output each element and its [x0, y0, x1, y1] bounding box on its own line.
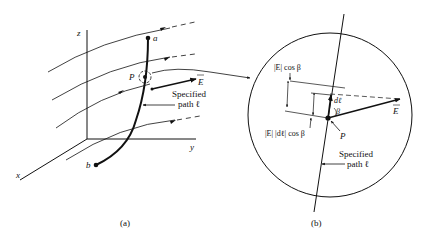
point-a-dot — [146, 36, 151, 41]
e-dl-cos-dimension — [313, 96, 314, 115]
point-p-label: P — [128, 72, 135, 82]
z-axis-label: z — [76, 28, 81, 38]
p-pointer-arrow — [331, 121, 340, 131]
e-cos-dimension — [287, 84, 288, 107]
path-label-line1: Specified — [172, 89, 206, 99]
e-dl-cos-tick-arrow — [310, 118, 311, 128]
zoom-connector-arrow — [210, 72, 250, 78]
point-p-dot — [143, 75, 147, 79]
path-label-b-line2: path ℓ — [347, 159, 369, 169]
path-label-line2: path ℓ — [178, 99, 200, 109]
point-b-dot — [94, 163, 99, 168]
dl-label: dℓ — [334, 96, 342, 105]
e-field-label: E — [197, 77, 204, 87]
diagram-canvas: z y x a b P E — [0, 0, 422, 238]
y-axis-label: y — [189, 142, 194, 152]
zoom-circle — [248, 33, 412, 197]
point-p-label-b: P — [339, 131, 346, 141]
caption-b: (b) — [311, 218, 322, 228]
dl-vector — [328, 95, 331, 118]
panel-b: E P dℓ β |E| cos β |E| |dℓ| cos β Specif… — [248, 14, 412, 228]
e-field-label-b: E — [392, 106, 399, 116]
e-dl-cos-beta-label: |E| |dℓ| cos β — [265, 129, 305, 138]
point-b-label: b — [86, 160, 91, 170]
caption-a: (a) — [120, 218, 130, 228]
path-label-b-line1: Specified — [339, 149, 373, 159]
e-cos-beta-label: |E| cos β — [274, 63, 301, 72]
e-vector-arrow — [152, 79, 196, 89]
point-a-label: a — [153, 33, 158, 43]
x-axis-label: x — [15, 170, 20, 180]
specified-path-curve — [96, 38, 148, 165]
panel-a: z y x a b P E — [15, 22, 210, 228]
